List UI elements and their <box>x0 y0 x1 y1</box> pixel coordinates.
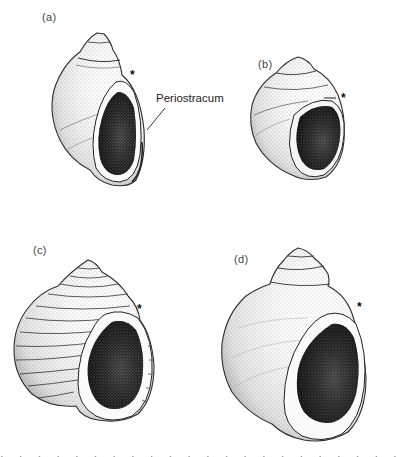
snail-shell-figure: (a) * Periostracum (b) * (c) <box>0 0 398 457</box>
asterisk-marker-a: * <box>130 68 135 82</box>
periostracum-callout: Periostracum <box>156 92 224 104</box>
cropped-caption-line: · · · · · · · · · · · · · · · · · · · · … <box>0 451 398 457</box>
shell-d-illustration <box>218 248 388 448</box>
panel-label-c: (c) <box>33 244 47 256</box>
callout-leader-line <box>138 106 168 136</box>
asterisk-marker-c: * <box>137 302 142 316</box>
shell-b-illustration <box>246 55 356 185</box>
asterisk-marker-d: * <box>357 300 362 314</box>
cropped-caption-text: · · · · · · · · · · · · · · · · · · · · … <box>0 451 398 457</box>
asterisk-marker-b: * <box>341 91 346 105</box>
panel-label-a: (a) <box>42 11 56 23</box>
shell-c-illustration <box>12 256 162 426</box>
